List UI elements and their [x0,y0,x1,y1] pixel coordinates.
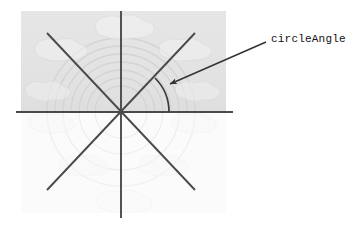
circle-angle-label: circleAngle [271,33,346,46]
figure-page: circleAngle [0,0,358,229]
